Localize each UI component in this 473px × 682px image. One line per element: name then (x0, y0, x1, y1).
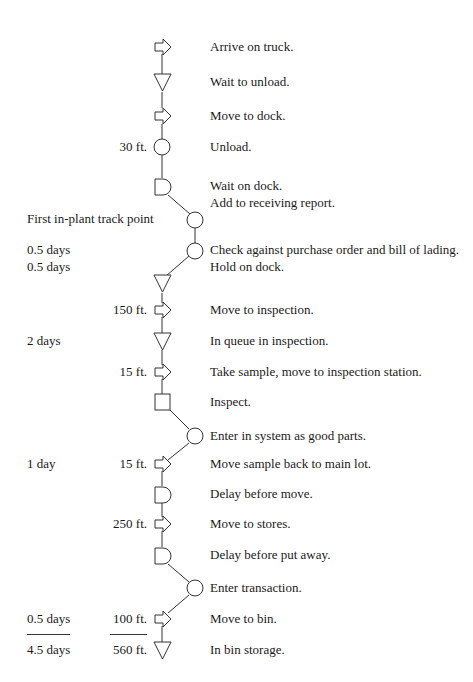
storage-triangle-icon (154, 333, 171, 350)
track-point-label: First in-plant track point (27, 211, 154, 227)
time-total: 4.5 days (27, 642, 70, 658)
transport-arrow-icon (155, 108, 171, 124)
inspection-square-icon (155, 394, 170, 410)
step-label: Add to receiving report. (210, 195, 335, 211)
time-value: 0.5 days (27, 242, 70, 258)
transport-arrow-icon (155, 611, 171, 627)
step-label: Hold on dock. (210, 259, 284, 275)
step-label: Arrive on truck. (210, 39, 293, 55)
operation-circle-icon (187, 243, 203, 259)
operation-circle-icon (187, 212, 203, 228)
transport-arrow-icon (155, 302, 171, 318)
transport-arrow-icon (155, 516, 171, 532)
storage-triangle-icon (154, 74, 171, 91)
distance-value: 30 ft. (120, 139, 147, 155)
distance-value: 15 ft. (120, 456, 147, 472)
storage-triangle-icon (154, 642, 171, 659)
step-label: Move to bin. (210, 611, 277, 627)
distance-value: 250 ft. (113, 516, 147, 532)
transport-arrow-icon (155, 39, 171, 55)
step-label: Enter in system as good parts. (210, 428, 366, 444)
time-value: 2 days (27, 333, 61, 349)
step-label: In bin storage. (210, 642, 285, 658)
step-label: Delay before move. (210, 486, 313, 502)
step-label: Move to stores. (210, 516, 291, 532)
delay-d-icon (155, 487, 171, 503)
step-label: Move sample back to main lot. (210, 456, 371, 472)
time-value: 0.5 days (27, 611, 70, 627)
step-label: In queue in inspection. (210, 333, 328, 349)
delay-d-icon (155, 548, 171, 564)
time-total-rule (27, 634, 70, 635)
step-label: Take sample, move to inspection station. (210, 364, 422, 380)
distance-value: 100 ft. (113, 611, 147, 627)
step-label: Check against purchase order and bill of… (210, 242, 459, 258)
step-label: Unload. (210, 139, 252, 155)
operation-circle-icon (154, 139, 170, 155)
transport-arrow-icon (155, 456, 171, 472)
time-value: 0.5 days (27, 259, 70, 275)
step-label: Enter transaction. (210, 580, 302, 596)
step-label: Wait on dock. (210, 178, 282, 194)
distance-value: 15 ft. (120, 364, 147, 380)
distance-total: 560 ft. (113, 642, 147, 658)
storage-triangle-icon (154, 275, 171, 292)
step-label: Wait to unload. (210, 74, 289, 90)
transport-arrow-icon (155, 364, 171, 380)
step-label: Inspect. (210, 394, 251, 410)
distance-total-rule (110, 634, 147, 635)
step-label: Delay before put away. (210, 547, 330, 563)
distance-value: 150 ft. (113, 302, 147, 318)
delay-d-icon (155, 179, 171, 195)
step-label: Move to inspection. (210, 302, 314, 318)
step-label: Move to dock. (210, 108, 285, 124)
time-value: 1 day (27, 456, 56, 472)
operation-circle-icon (187, 580, 203, 596)
operation-circle-icon (187, 428, 203, 444)
